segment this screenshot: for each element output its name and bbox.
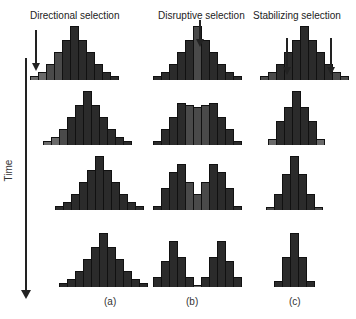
title-directional: Directional selection	[30, 10, 120, 21]
histogram-c-row-1	[260, 26, 348, 80]
histogram-bar	[139, 283, 148, 287]
title-stabilizing: Stabilizing selection	[253, 10, 341, 21]
histogram-bar	[233, 277, 242, 287]
histogram-c-row-3	[266, 156, 322, 210]
histogram-bar	[306, 281, 315, 287]
histogram-b-row-1	[153, 26, 241, 80]
histogram-a-row-4	[59, 233, 147, 287]
title-disruptive: Disruptive selection	[158, 10, 245, 21]
histogram-bar	[110, 76, 119, 80]
panel-label-b: (b)	[186, 296, 198, 307]
histogram-bar	[233, 141, 242, 145]
histogram-b-row-2	[153, 103, 241, 145]
histogram-bar	[316, 139, 325, 145]
histogram-bar	[135, 206, 144, 210]
histogram-b-row-4	[153, 241, 241, 287]
histogram-bar	[123, 141, 132, 145]
selection-arrow-icon	[286, 38, 288, 68]
histogram-bar	[233, 206, 242, 210]
panel-label-c: (c)	[289, 296, 301, 307]
histogram-a-row-3	[55, 156, 143, 210]
time-arrow-icon	[21, 290, 31, 299]
panel-label-a: (a)	[104, 296, 116, 307]
selection-arrow-icon	[35, 30, 37, 64]
histogram-bar	[340, 76, 349, 80]
histogram-a-row-1	[30, 26, 118, 80]
selection-arrow-icon	[199, 20, 201, 40]
histogram-b-row-3	[153, 164, 241, 210]
time-axis-label: Time	[3, 160, 14, 182]
histogram-c-row-4	[274, 233, 314, 287]
selection-arrow-icon	[330, 38, 332, 68]
time-axis	[25, 58, 27, 294]
histogram-bar	[233, 76, 242, 80]
histogram-a-row-2	[43, 91, 131, 145]
histogram-bar	[314, 207, 323, 210]
histogram-c-row-2	[268, 91, 324, 145]
